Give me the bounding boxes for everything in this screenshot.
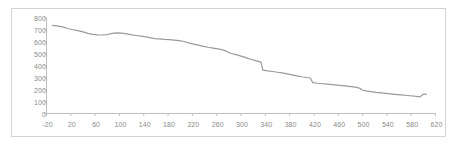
data-series-group [53,25,427,97]
data-line-series-1 [53,25,427,97]
chart-plot-area [0,0,458,147]
